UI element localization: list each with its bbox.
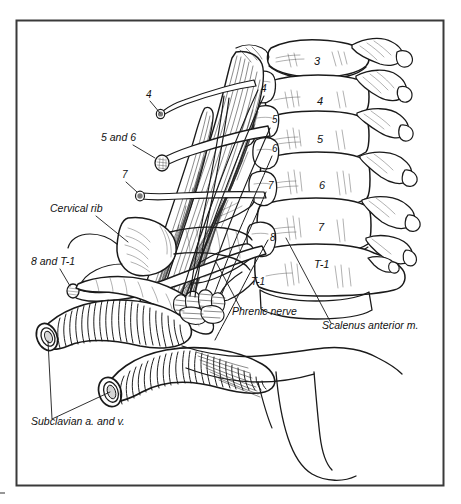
label-foramen-4: 4 bbox=[261, 83, 267, 94]
label-phrenic-nerve: Phrenic nerve bbox=[232, 305, 297, 317]
illustration-canvas: 4 5 and 6 7 8 and T-1 Cervical rib Phren… bbox=[0, 0, 461, 504]
label-foramen-7: 7 bbox=[268, 180, 274, 191]
label-root-7: 7 bbox=[122, 169, 128, 180]
anatomical-figure: 4 5 and 6 7 8 and T-1 Cervical rib Phren… bbox=[0, 0, 461, 504]
label-foramen-8: 8 bbox=[270, 232, 276, 243]
label-root-8-and-t1: 8 and T-1 bbox=[31, 255, 75, 267]
label-cervical-rib: Cervical rib bbox=[50, 202, 103, 214]
label-vertebra-4: 4 bbox=[317, 95, 323, 107]
label-foramen-5: 5 bbox=[272, 114, 278, 125]
label-vertebra-3: 3 bbox=[314, 55, 321, 67]
label-subclavian-vessels: Subclavian a. and v. bbox=[31, 415, 125, 427]
label-vertebra-5: 5 bbox=[317, 133, 324, 145]
label-vertebra-6: 6 bbox=[319, 179, 326, 191]
label-vertebra-t1: T-1 bbox=[314, 258, 330, 270]
label-foramen-6: 6 bbox=[272, 143, 278, 154]
label-vertebra-7: 7 bbox=[318, 221, 325, 233]
label-scalenus-anterior: Scalenus anterior m. bbox=[322, 319, 418, 331]
nerve-stump-c4-core bbox=[158, 111, 163, 116]
label-root-5-and-6: 5 and 6 bbox=[101, 131, 136, 143]
nerve-stump-c7-core bbox=[137, 193, 142, 198]
label-root-4: 4 bbox=[146, 89, 152, 100]
label-process-t1: T-1 bbox=[251, 276, 265, 287]
